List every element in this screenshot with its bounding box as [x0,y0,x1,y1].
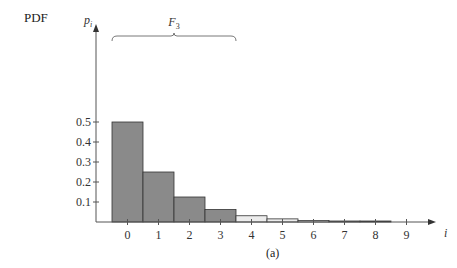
y-axis-label-sub: i [90,20,92,29]
brace-annotation [112,33,236,41]
y-axis-arrow-icon [93,24,99,32]
x-tick-label: 3 [218,228,224,242]
x-tick-label: 0 [125,228,131,242]
annotation-label: F3 [167,15,179,31]
bar-2 [174,197,205,222]
annotation-label-sub: 3 [176,22,180,31]
y-axis-label: pi [83,13,92,29]
x-axis-arrow-icon [428,219,436,225]
x-tick-label: 8 [373,228,379,242]
x-tick-label: 1 [156,228,162,242]
x-axis-label: i [444,226,447,240]
y-tick-label: 0.3 [76,155,91,169]
x-tick-label: 9 [404,228,410,242]
x-tick-label: 5 [280,228,286,242]
x-tick-label: 2 [187,228,193,242]
bar-chart: 01234567890.10.20.30.40.5piiF3 [0,0,457,268]
y-tick-label: 0.5 [76,115,91,129]
figure-caption: (a) [266,246,279,261]
y-tick-label: 0.4 [76,135,91,149]
bar-0 [112,122,143,222]
y-tick-label: 0.1 [76,195,91,209]
y-tick-label: 0.2 [76,175,91,189]
bar-1 [143,172,174,222]
x-tick-label: 4 [249,228,255,242]
x-tick-label: 7 [342,228,348,242]
x-tick-label: 6 [311,228,317,242]
